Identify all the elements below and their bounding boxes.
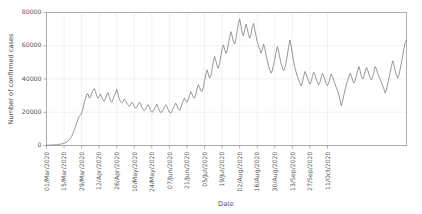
x-tick-label: 27/Sep/2020 [306, 151, 314, 191]
chart-figure: 020000400006000080000 01/Mar/202015/Mar/… [0, 0, 422, 214]
y-tick-label: 60000 [22, 41, 42, 48]
data-line-confirmed-cases [47, 19, 407, 145]
y-tick-label: 0 [38, 141, 42, 148]
line-chart: 020000400006000080000 01/Mar/202015/Mar/… [0, 0, 422, 214]
x-tick-marks [47, 146, 328, 149]
x-tick-label: 29/Mar/2020 [78, 151, 85, 191]
x-tick-label: 24/May/2020 [148, 151, 156, 192]
y-tick-labels: 020000400006000080000 [22, 8, 42, 148]
x-tick-label: 13/Sep/2020 [289, 151, 297, 191]
x-tick-labels: 01/Mar/202015/Mar/202029/Mar/202012/Apr/… [43, 151, 331, 192]
y-tick-label: 80000 [22, 8, 42, 15]
x-tick-label: 19/Jul/2020 [218, 151, 226, 186]
data-series-group [47, 19, 407, 145]
x-tick-label: 02/Aug/2020 [236, 151, 244, 191]
x-tick-label: 10/May/2020 [131, 151, 139, 192]
x-tick-label: 11/Oct/2020 [324, 151, 331, 190]
x-tick-label: 30/Aug/2020 [271, 151, 279, 191]
x-axis-title: Date [218, 200, 234, 208]
x-tick-label: 07/Jun/2020 [166, 151, 174, 189]
y-tick-marks [44, 13, 47, 146]
x-tick-label: 01/Mar/2020 [43, 151, 50, 191]
x-tick-label: 15/Mar/2020 [60, 151, 67, 191]
x-tick-label: 26/Apr/2020 [113, 151, 121, 190]
x-tick-label: 12/Apr/2020 [95, 151, 103, 190]
y-axis-title: Number of confirmed cases [7, 33, 15, 125]
x-tick-label: 16/Aug/2020 [253, 151, 261, 191]
y-tick-label: 20000 [22, 108, 42, 115]
y-tick-label: 40000 [22, 75, 42, 82]
x-tick-label: 05/Jul/2020 [201, 151, 209, 186]
x-tick-label: 21/Jun/2020 [183, 151, 191, 189]
